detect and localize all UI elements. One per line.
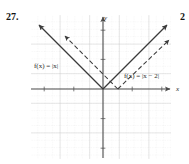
x-axis-label: x <box>176 85 179 93</box>
function-label-dashed: f(x) = |x − 2| <box>124 73 159 80</box>
function-label-solid: f(x) = |x| <box>34 63 58 70</box>
next-problem-number-partial: 2 <box>180 11 188 22</box>
figure-container: 27. 2 <box>0 0 189 164</box>
y-axis-label: y <box>104 14 107 22</box>
graph-svg <box>30 14 172 160</box>
problem-number: 27. <box>6 11 19 22</box>
coordinate-plot <box>30 14 172 160</box>
